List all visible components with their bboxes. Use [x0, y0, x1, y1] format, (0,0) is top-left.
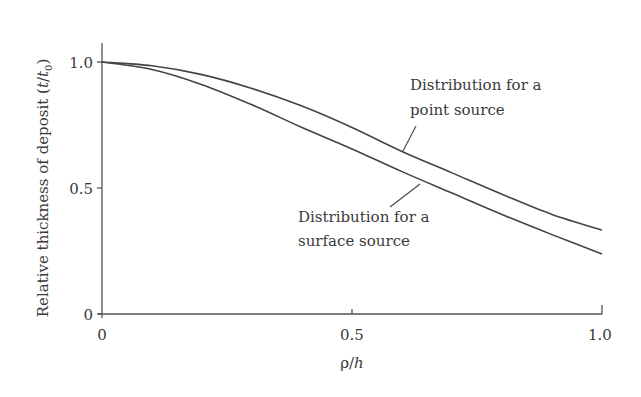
surface-source-label-line1: Distribution for a — [298, 208, 430, 226]
x-tick-label-0: 0 — [97, 326, 107, 344]
point-source-label-line2: point source — [410, 101, 505, 119]
y-tick-label-0.5: 0.5 — [69, 180, 93, 198]
y-tick-label-1: 1.0 — [69, 54, 93, 72]
point-source-label-line1: Distribution for a — [410, 76, 542, 94]
x-tick-label-0.5: 0.5 — [340, 326, 364, 344]
surface-source-label-line2: surface source — [298, 232, 410, 250]
x-axis-label: ρ/h — [340, 354, 364, 372]
y-tick-label-0: 0 — [83, 306, 93, 324]
x-tick-label-1: 1.0 — [588, 326, 612, 344]
point-source-leader-line — [403, 126, 416, 151]
surface-source-leader-line — [390, 184, 420, 207]
y-axis-label: Relative thickness of deposit (t/t0) — [34, 59, 54, 318]
chart-canvas: 1.0 0.5 0 0 0.5 1.0 ρ/h Relative thickne… — [0, 0, 641, 397]
